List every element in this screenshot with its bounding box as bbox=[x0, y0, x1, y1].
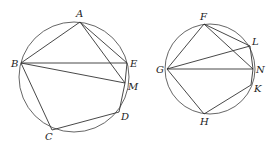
left-circle-figure: ABEMDC bbox=[10, 8, 139, 142]
right-circle-figure: FLGNKH bbox=[156, 11, 266, 127]
segment-em bbox=[125, 63, 127, 83]
point-label-c: C bbox=[45, 131, 53, 142]
segment-bc bbox=[21, 63, 52, 130]
segment-hk bbox=[204, 85, 251, 114]
point-label-l: L bbox=[251, 36, 259, 47]
point-label-e: E bbox=[129, 58, 138, 69]
point-label-h: H bbox=[199, 116, 209, 127]
point-label-a: A bbox=[75, 8, 83, 19]
left-circle-outline bbox=[19, 22, 129, 132]
point-label-f: F bbox=[199, 11, 208, 22]
point-label-b: B bbox=[10, 58, 18, 69]
segment-cd bbox=[52, 112, 119, 130]
point-label-g: G bbox=[156, 64, 164, 75]
segment-am bbox=[80, 22, 125, 83]
geometry-diagram: ABEMDC FLGNKH bbox=[0, 0, 277, 148]
segment-md bbox=[119, 83, 125, 112]
point-label-k: K bbox=[253, 83, 262, 94]
point-label-n: N bbox=[255, 64, 266, 75]
point-label-d: D bbox=[120, 111, 129, 122]
segment-gl bbox=[167, 46, 250, 69]
segment-bm bbox=[21, 63, 125, 83]
segment-ae bbox=[80, 22, 127, 63]
segment-fn bbox=[204, 24, 253, 69]
point-label-m: M bbox=[127, 81, 139, 92]
segment-ln bbox=[250, 46, 253, 69]
segment-ab bbox=[21, 22, 80, 63]
